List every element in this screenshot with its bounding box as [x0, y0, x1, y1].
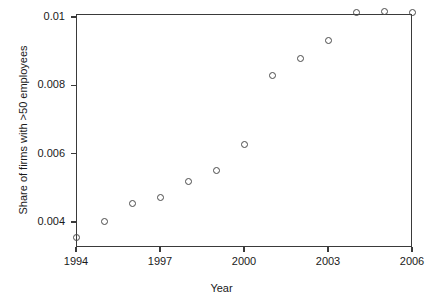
y-tick-label: 0.008	[0, 79, 65, 90]
plot-frame	[76, 14, 412, 247]
data-point	[101, 218, 108, 225]
x-tick-label: 1994	[64, 256, 88, 267]
x-tick-label: 2006	[400, 256, 424, 267]
x-tick-mark	[243, 247, 244, 252]
data-point	[241, 141, 248, 148]
y-tick-label: 0.004	[0, 216, 65, 227]
data-point	[381, 8, 388, 15]
x-tick-mark	[411, 247, 412, 252]
x-axis-title: Year	[0, 282, 443, 294]
data-point	[325, 37, 332, 44]
y-tick-label: 0.006	[0, 148, 65, 159]
x-tick-mark	[327, 247, 328, 252]
data-point	[157, 194, 164, 201]
x-tick-mark	[75, 247, 76, 252]
y-tick-mark	[71, 221, 76, 222]
y-tick-mark	[71, 16, 76, 17]
data-point	[297, 55, 304, 62]
x-tick-label: 2000	[232, 256, 256, 267]
y-tick-mark	[71, 85, 76, 86]
y-tick-label: 0.01	[0, 11, 65, 22]
data-point	[129, 200, 136, 207]
data-point	[353, 9, 360, 16]
x-tick-label: 2003	[316, 256, 340, 267]
data-point	[185, 178, 192, 185]
data-point	[269, 72, 276, 79]
scatter-chart-figure: 0.0040.0060.0080.01 19941997200020032006…	[0, 0, 443, 301]
x-tick-mark	[159, 247, 160, 252]
y-tick-mark	[71, 153, 76, 154]
x-tick-label: 1997	[148, 256, 172, 267]
data-point	[213, 167, 220, 174]
y-axis-title: Share of firms with >50 employees	[17, 30, 29, 230]
data-point	[73, 234, 80, 241]
data-point	[409, 9, 416, 16]
